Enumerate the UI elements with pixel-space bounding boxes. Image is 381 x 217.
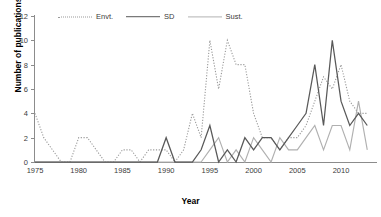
y-tick-mark bbox=[31, 16, 34, 17]
y-tick-mark bbox=[31, 65, 34, 66]
y-tick-mark bbox=[31, 138, 34, 139]
x-tick-label: 1975 bbox=[15, 166, 55, 175]
x-tick-label: 1980 bbox=[59, 166, 99, 175]
x-axis-label: Year bbox=[0, 196, 381, 206]
y-tick-label: 4 bbox=[4, 109, 28, 118]
y-tick-mark bbox=[31, 40, 34, 41]
x-tick-label: 1990 bbox=[146, 166, 186, 175]
x-tick-label: 1985 bbox=[102, 166, 142, 175]
y-tick-label: 8 bbox=[4, 60, 28, 69]
series-line-envt bbox=[35, 40, 367, 162]
y-tick-mark bbox=[31, 113, 34, 114]
x-tick-label: 1995 bbox=[190, 166, 230, 175]
series-line-sd bbox=[35, 40, 367, 162]
x-tick-label: 2005 bbox=[277, 166, 317, 175]
plot-area bbox=[35, 16, 376, 162]
y-tick-label: 6 bbox=[4, 85, 28, 94]
x-tick-label: 2000 bbox=[234, 166, 274, 175]
y-tick-mark bbox=[31, 89, 34, 90]
y-tick-label: 12 bbox=[4, 12, 28, 21]
x-tick-label: 2010 bbox=[321, 166, 361, 175]
y-tick-label: 2 bbox=[4, 133, 28, 142]
y-tick-mark bbox=[31, 162, 34, 163]
publications-line-chart: Number of publications Year 024681012 19… bbox=[0, 0, 381, 217]
y-tick-label: 10 bbox=[4, 36, 28, 45]
